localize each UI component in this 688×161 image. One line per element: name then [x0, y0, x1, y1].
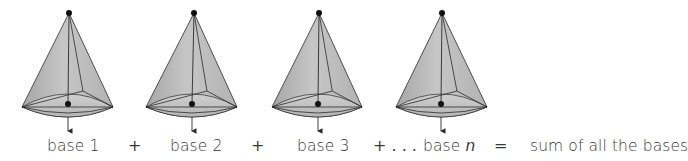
- plus-operator-2: +: [251, 136, 264, 155]
- apex-dot: [191, 10, 197, 16]
- cone-n: [396, 10, 487, 131]
- cone-1: [22, 10, 113, 131]
- base-center-dot: [438, 101, 444, 107]
- apex-dot: [316, 10, 322, 16]
- label-base-n-variable: n: [465, 137, 475, 155]
- equals-operator: =: [494, 136, 507, 155]
- apex-dot: [66, 10, 72, 16]
- apex-dot: [439, 10, 445, 16]
- cone-3: [272, 10, 362, 131]
- label-base-n: base n: [423, 137, 475, 155]
- base-center-dot: [315, 101, 321, 107]
- base-center-dot: [189, 101, 195, 107]
- label-base-2: base 2: [170, 137, 222, 155]
- base-center-dot: [65, 101, 71, 107]
- label-base-n-prefix: base: [423, 137, 465, 155]
- result-label: sum of all the bases: [530, 137, 688, 155]
- plus-ellipsis-operator: + . . .: [373, 136, 417, 155]
- label-base-1: base 1: [47, 137, 99, 155]
- label-base-3: base 3: [297, 137, 349, 155]
- cone-2: [146, 10, 237, 131]
- plus-operator-1: +: [128, 136, 141, 155]
